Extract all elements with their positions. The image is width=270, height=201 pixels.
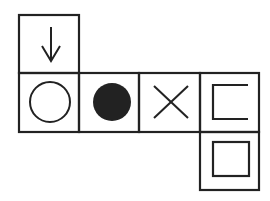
filled-circle-icon	[93, 83, 131, 121]
open-circle-icon	[30, 82, 70, 122]
open-bracket-icon	[213, 85, 248, 119]
face-top	[19, 15, 79, 73]
cube-net-diagram	[0, 0, 270, 201]
face-bottom	[200, 132, 259, 190]
x-cross-icon	[154, 86, 188, 118]
down-arrow-icon	[42, 27, 60, 61]
square-icon	[213, 142, 249, 176]
face-row-4	[200, 73, 259, 132]
